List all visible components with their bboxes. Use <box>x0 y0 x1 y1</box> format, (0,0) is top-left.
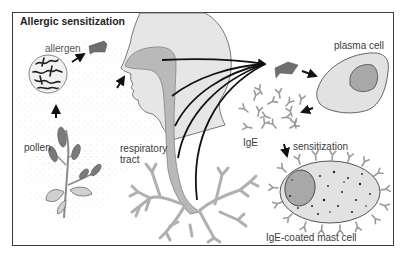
label-ige: IgE <box>243 137 258 148</box>
label-sensitization: sensitization <box>293 141 348 152</box>
label-respiratory: respiratory <box>120 143 167 154</box>
diagram-canvas <box>0 0 408 259</box>
allergic-sensitization-diagram: Allergic sensitization allergen pollen r… <box>0 0 408 259</box>
pollen-grain <box>29 55 67 93</box>
label-pollen: pollen <box>24 142 51 153</box>
label-plasma-cell: plasma cell <box>334 40 384 51</box>
label-tract: tract <box>120 154 139 165</box>
label-mast-cell: IgE-coated mast cell <box>266 232 357 243</box>
label-allergen: allergen <box>45 43 81 54</box>
diagram-title: Allergic sensitization <box>20 15 125 27</box>
